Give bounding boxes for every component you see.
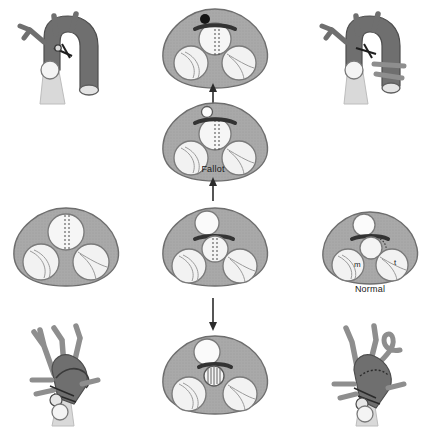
pulmonary-valve-circle xyxy=(194,339,220,365)
great-vessel-anatomy-svg xyxy=(312,318,424,430)
valve-plane-section-svg xyxy=(155,205,277,293)
great-vessel-anatomy-svg xyxy=(10,8,122,112)
tricuspid-valve-circle xyxy=(222,46,256,80)
great-vessel-anatomy-svg xyxy=(10,318,122,430)
valve-annulus-circle xyxy=(345,61,363,79)
panel-mid-left-section xyxy=(8,205,130,293)
arrow-up-lower xyxy=(203,176,223,202)
panel-mid-center-section xyxy=(155,205,277,293)
valve-plane-section-svg xyxy=(155,332,277,420)
panel-top-center-section xyxy=(155,6,277,94)
mitral-valve-circle xyxy=(172,377,206,411)
arrow-up-icon xyxy=(203,176,223,202)
valve-plane-section-svg: m t xyxy=(314,208,426,290)
panel-mid-right-section-normal: m t xyxy=(314,208,426,290)
tricuspid-valve-circle xyxy=(223,249,257,283)
panel-bottom-center-section xyxy=(155,332,277,420)
tricuspid-valve-circle xyxy=(376,249,408,281)
valve-annulus-circle xyxy=(52,404,68,420)
label-fallot: Fallot xyxy=(183,164,243,174)
descending-aorta-stump xyxy=(80,85,99,95)
arrow-down-icon xyxy=(203,298,223,332)
offset-pulmonary-circle xyxy=(195,211,219,235)
mitral-valve-label: m xyxy=(354,260,361,269)
valve-plane-section-svg xyxy=(8,205,130,293)
descending-aorta-stump xyxy=(382,83,400,93)
tricuspid-valve-circle xyxy=(223,377,257,411)
panel-bottom-left-anatomy xyxy=(10,318,122,430)
tricuspid-valve-circle xyxy=(73,244,109,280)
valve-annulus-circle xyxy=(357,406,373,422)
mitral-valve-circle xyxy=(174,46,208,80)
panel-bottom-right-anatomy xyxy=(312,318,424,430)
pulmonary-valve-circle xyxy=(353,214,375,236)
valve-plane-section-svg xyxy=(155,6,277,94)
great-vessel-anatomy-svg xyxy=(312,8,424,112)
label-normal: Normal xyxy=(340,284,400,294)
aortic-valve-circle xyxy=(48,214,84,250)
mitral-valve-circle xyxy=(172,249,206,283)
valve-annulus-circle xyxy=(41,61,59,79)
filled-dot-marker xyxy=(200,14,210,24)
panel-top-right-anatomy xyxy=(312,8,424,112)
aortic-valve-circle xyxy=(202,236,228,262)
mitral-valve-circle xyxy=(23,244,59,280)
arrow-down xyxy=(203,298,223,332)
panel-top-left-anatomy xyxy=(10,8,122,112)
open-dot-marker xyxy=(202,107,213,118)
